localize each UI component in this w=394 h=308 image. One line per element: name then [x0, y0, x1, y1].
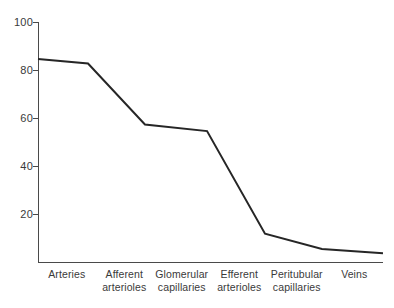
x-axis-label-afferent-arterioles-line2: arterioles [97, 281, 153, 294]
x-axis-label-efferent-arterioles: Efferent arterioles [211, 268, 269, 306]
x-axis-label-veins: Veins [326, 268, 384, 306]
x-axis-label-arteries: Arteries [38, 268, 96, 306]
x-axis-tick-label-group: Arteries Afferent arterioles Glomerular … [38, 268, 383, 306]
data-line-pressure [38, 59, 383, 253]
x-axis-label-afferent-arterioles: Afferent arterioles [96, 268, 154, 306]
chart-figure: 100 80 60 40 20 Arteries Afferent arteri… [0, 0, 394, 308]
x-axis-label-peritubular-capillaries: Peritubular capillaries [268, 268, 326, 306]
x-axis-label-efferent-arterioles-line1: Efferent [212, 268, 268, 281]
x-axis-label-efferent-arterioles-line2: arterioles [212, 281, 268, 294]
x-axis-label-peritubular-capillaries-line1: Peritubular [269, 268, 325, 281]
x-axis-label-glomerular-capillaries-line2: capillaries [154, 281, 210, 294]
plot-area [0, 0, 394, 308]
x-axis-label-glomerular-capillaries: Glomerular capillaries [153, 268, 211, 306]
x-axis-label-veins-line1: Veins [327, 268, 383, 281]
x-axis-label-afferent-arterioles-line1: Afferent [97, 268, 153, 281]
x-axis-label-peritubular-capillaries-line2: capillaries [269, 281, 325, 294]
x-axis-label-arteries-line1: Arteries [39, 268, 95, 281]
x-axis-label-glomerular-capillaries-line1: Glomerular [154, 268, 210, 281]
